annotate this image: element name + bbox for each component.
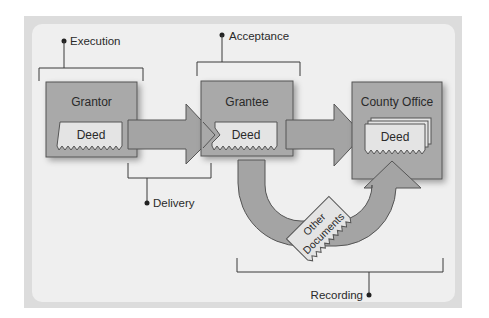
county-office-deed-label: Deed — [381, 130, 410, 144]
grantor-title: Grantor — [71, 95, 112, 109]
grantee-deed: Deed — [212, 122, 277, 150]
acceptance-label: Acceptance — [229, 30, 289, 42]
recording-label: Recording — [311, 289, 363, 301]
delivery-dot — [145, 201, 150, 206]
grantee-deed-label: Deed — [232, 128, 261, 142]
deed-transfer-diagram: Execution Acceptance Delivery Recording … — [0, 0, 489, 318]
grantor-deed: Deed — [57, 122, 122, 150]
county-office-title: County Office — [361, 95, 434, 109]
execution-label: Execution — [70, 35, 121, 47]
county-office-deed-stack: Deed — [365, 118, 431, 154]
grantor-deed-label: Deed — [77, 128, 106, 142]
recording-dot — [367, 293, 372, 298]
grantee-title: Grantee — [225, 95, 269, 109]
delivery-label: Delivery — [153, 197, 195, 209]
